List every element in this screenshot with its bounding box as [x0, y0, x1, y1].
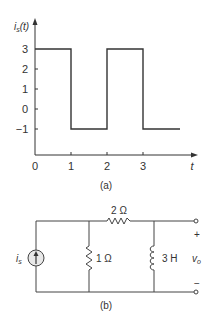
ytick-3: 3	[22, 43, 28, 55]
minus-sign: −	[194, 278, 200, 289]
inductor-3h	[150, 246, 154, 270]
figure: 3 2 1 0 −1 0 1 2 3 t is(t) (a)	[0, 0, 212, 313]
caption-a: (a)	[100, 180, 112, 191]
x-axis-arrow-icon	[191, 153, 198, 158]
current-source-icon	[28, 250, 44, 266]
y-axis-label: is(t)	[14, 21, 29, 33]
source-label: is	[16, 253, 22, 265]
terminal-bottom	[194, 290, 198, 294]
y-axis-arrow-icon	[33, 18, 38, 25]
label-1ohm: 1 Ω	[96, 253, 112, 264]
caption-b: (b)	[100, 300, 112, 311]
ytick-2: 2	[22, 63, 28, 75]
label-3h: 3 H	[162, 253, 178, 264]
ytick-0: 0	[22, 103, 28, 115]
label-2ohm: 2 Ω	[111, 205, 127, 216]
is-waveform	[35, 49, 180, 129]
resistor-2ohm	[107, 218, 130, 224]
ytick-1: 1	[22, 83, 28, 95]
waveform-plot: 3 2 1 0 −1 0 1 2 3 t is(t) (a)	[14, 18, 198, 191]
terminal-top	[194, 219, 198, 223]
xtick-1: 1	[68, 160, 74, 172]
vo-label: vo	[192, 253, 201, 265]
resistor-1ohm	[86, 246, 92, 270]
xtick-2: 2	[104, 160, 110, 172]
xtick-0: 0	[32, 160, 38, 172]
xtick-3: 3	[140, 160, 146, 172]
plus-sign: +	[194, 229, 200, 240]
x-axis-label: t	[190, 160, 194, 172]
ytick-neg1: −1	[16, 123, 29, 135]
